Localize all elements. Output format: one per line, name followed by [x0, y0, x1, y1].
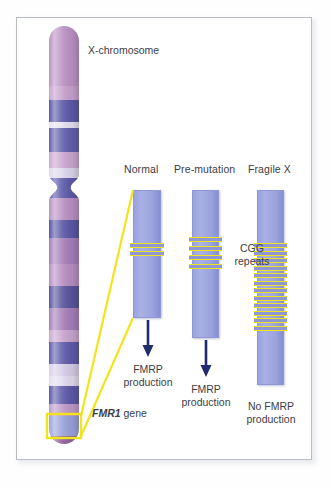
- cgg-repeats-line2: repeats: [224, 255, 280, 268]
- outcome-fragile-x-line2: production: [231, 413, 311, 426]
- outcome-normal-line1: FMRP: [108, 363, 188, 376]
- repeat-band: [130, 243, 164, 248]
- column-title-pre-mutation: Pre-mutation: [174, 163, 235, 175]
- outcome-pre-mutation-line1: FMRP: [166, 383, 246, 396]
- repeat-band: [254, 311, 287, 316]
- gene-bar-fragile-x: [257, 190, 284, 385]
- repeat-band: [254, 281, 287, 286]
- repeat-band: [189, 237, 222, 242]
- repeat-band: [254, 303, 287, 308]
- repeat-band: [189, 255, 222, 260]
- repeat-band: [130, 251, 164, 256]
- repeat-band: [254, 326, 287, 331]
- cgg-repeats-annotation: CGG repeats: [224, 242, 280, 268]
- fmr1-gene-suffix: gene: [121, 407, 147, 419]
- column-title-fragile-x: Fragile X: [248, 163, 291, 175]
- repeat-band: [254, 288, 287, 293]
- x-chromosome-label: X-chromosome: [88, 44, 159, 56]
- x-chromosome-graphic: [49, 26, 79, 444]
- repeat-band: [189, 246, 222, 251]
- gene-bar-normal: [133, 190, 161, 318]
- repeat-band: [254, 318, 287, 323]
- figure-canvas: X-chromosome FMR1 gene Normal FMRP produ…: [0, 0, 331, 488]
- outcome-fragile-x-line1: No FMRP: [231, 400, 311, 413]
- repeat-band: [254, 273, 287, 278]
- repeat-band: [189, 264, 222, 269]
- cgg-repeats-line1: CGG: [224, 242, 280, 255]
- fmr1-gene-name: FMR1: [92, 407, 121, 419]
- outcome-fragile-x: No FMRP production: [231, 400, 311, 426]
- gene-bar-pre-mutation: [192, 190, 219, 338]
- repeat-stack-normal: [132, 243, 162, 257]
- repeat-stack-pre-mutation: [191, 237, 220, 273]
- column-title-normal: Normal: [124, 163, 158, 175]
- arrow-normal: [140, 320, 156, 358]
- arrow-pre-mutation: [198, 340, 214, 378]
- fmr1-gene-label: FMR1 gene: [92, 407, 147, 419]
- repeat-band: [254, 296, 287, 301]
